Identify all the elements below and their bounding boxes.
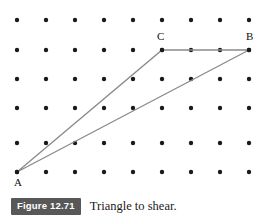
lattice-dot [73,106,77,110]
lattice-dot [15,18,19,22]
lattice-dot-plot: A C B [0,0,271,196]
lattice-dot [44,77,48,81]
triangle-outline [17,50,249,172]
lattice-dot [189,106,193,110]
lattice-dot [131,77,135,81]
triangle-vertex-dot [247,48,251,52]
lattice-dot [73,77,77,81]
lattice-dot [44,48,48,52]
lattice-dot [44,170,48,174]
lattice-dot [44,106,48,110]
vertex-label-c: C [157,31,164,42]
lattice-dot [44,18,48,22]
lattice-dot [15,77,19,81]
figure-container: A C B Figure 12.71 Triangle to shear. [0,0,271,222]
lattice-dot [131,170,135,174]
lattice-dot [218,170,222,174]
lattice-dot [189,18,193,22]
lattice-dot [102,170,106,174]
lattice-dot [15,48,19,52]
lattice-dot [247,77,251,81]
lattice-dot [102,48,106,52]
lattice-dot [15,141,19,145]
lattice-dot [218,106,222,110]
lattice-dot [247,170,251,174]
lattice-dot [73,170,77,174]
triangle-shape [15,48,251,174]
lattice-dot [160,170,164,174]
figure-caption: Figure 12.71 Triangle to shear. [0,190,271,222]
lattice-dot [218,77,222,81]
lattice-dot [102,77,106,81]
lattice-dot [73,18,77,22]
triangle-vertex-dot [160,48,164,52]
lattice-dot [15,106,19,110]
lattice-dot [247,141,251,145]
lattice-dot [131,141,135,145]
vertex-label-a: A [14,177,22,188]
lattice-dot [247,18,251,22]
lattice-dot [160,77,164,81]
lattice-dot [73,48,77,52]
lattice-dot [189,141,193,145]
lattice-dot [102,106,106,110]
lattice-dot [160,18,164,22]
figure-caption-text: Triangle to shear. [90,200,177,213]
lattice-dot [102,141,106,145]
triangle-lattice-svg [0,0,271,196]
dot-grid [15,18,251,174]
lattice-dot [218,141,222,145]
lattice-dot [102,18,106,22]
lattice-dot [218,18,222,22]
lattice-dot [131,18,135,22]
lattice-dot [247,106,251,110]
lattice-dot [160,106,164,110]
lattice-dot [44,141,48,145]
lattice-dot [189,170,193,174]
triangle-vertex-dot [15,170,19,174]
lattice-dot [131,48,135,52]
vertex-label-b: B [246,31,253,42]
lattice-dot [160,141,164,145]
figure-number-badge: Figure 12.71 [11,198,81,215]
